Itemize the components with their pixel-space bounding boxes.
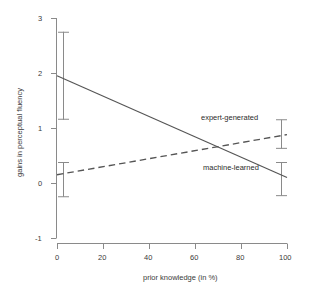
x-tick-label-20: 20: [98, 253, 106, 262]
x-axis-title: prior knowledge (in %): [143, 273, 218, 282]
chart-figure: 3 2 1 0 -1 0 20 40 60 80 100 prior knowl…: [0, 0, 310, 289]
x-tick-label-80: 80: [236, 253, 244, 262]
errorbar-machine-learned-right: [276, 162, 287, 196]
y-tick-label-1: 1: [38, 124, 42, 133]
line-chart-plot: [0, 0, 310, 289]
errorbar-expert-generated-left: [58, 162, 69, 197]
x-tick-label-0: 0: [55, 253, 59, 262]
series-label-expert-generated: expert-generated: [201, 113, 258, 122]
x-tick-label-60: 60: [190, 253, 198, 262]
x-tick-label-40: 40: [144, 253, 152, 262]
y-axis-ticks: [51, 19, 57, 239]
y-tick-label-0: 0: [38, 179, 42, 188]
x-tick-label-100: 100: [279, 253, 292, 262]
x-axis-ticks: [58, 244, 288, 250]
y-tick-label-neg1: -1: [35, 234, 42, 243]
errorbar-machine-learned-left: [58, 32, 69, 120]
y-tick-label-3: 3: [38, 14, 42, 23]
y-axis-title: gains in perceptual fluency: [15, 68, 24, 198]
series-label-machine-learned: machine-learned: [203, 163, 259, 172]
errorbar-expert-generated-right: [276, 120, 287, 149]
y-tick-label-2: 2: [38, 69, 42, 78]
